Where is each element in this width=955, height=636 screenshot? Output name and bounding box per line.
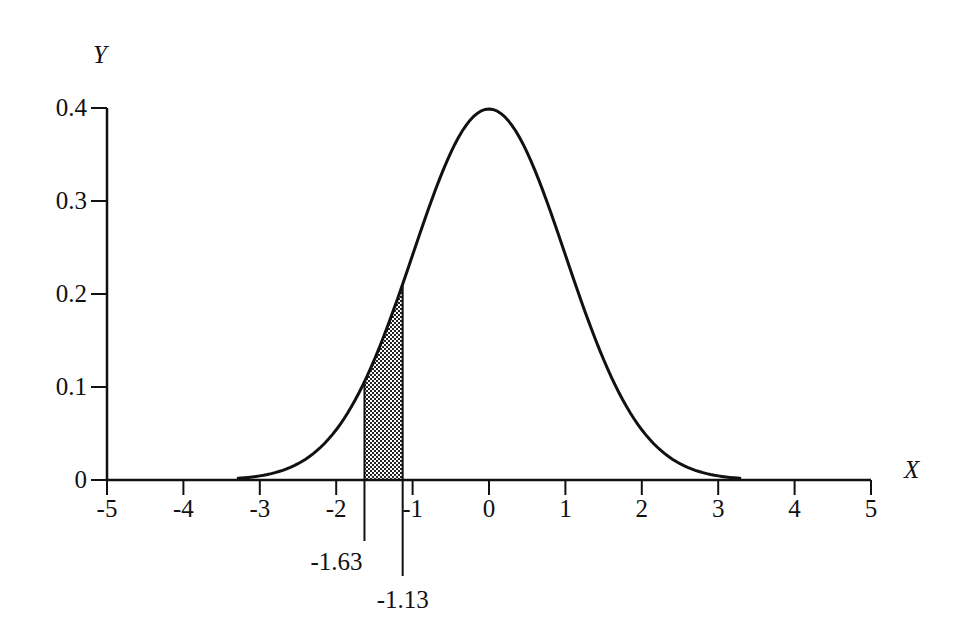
y-tick-label: 0.3 <box>56 187 87 214</box>
lower-bound-label: -1.63 <box>310 548 362 575</box>
x-tick-label: -3 <box>249 495 270 522</box>
x-tick-label: 2 <box>636 495 649 522</box>
density-curve <box>237 109 741 478</box>
y-tick-label: 0.1 <box>56 373 87 400</box>
x-tick-label: 0 <box>483 495 496 522</box>
x-tick-label: -4 <box>173 495 194 522</box>
x-tick-label: 4 <box>788 495 801 522</box>
y-tick-label: 0.4 <box>56 94 88 121</box>
x-tick-label: 3 <box>712 495 725 522</box>
shaded-probability-region <box>364 284 402 480</box>
x-tick-label: -5 <box>97 495 118 522</box>
y-tick-label: 0 <box>75 466 88 493</box>
y-axis-title: Y <box>93 41 110 68</box>
x-tick-label: -2 <box>326 495 347 522</box>
axes: -5-4-3-2-101234500.10.20.30.4 <box>56 94 878 522</box>
x-axis-title: X <box>903 456 921 483</box>
upper-bound-label: -1.13 <box>377 586 429 613</box>
x-tick-label: -1 <box>402 495 423 522</box>
normal-distribution-chart: -5-4-3-2-101234500.10.20.30.4 -1.63-1.13… <box>0 0 955 636</box>
x-tick-label: 1 <box>559 495 572 522</box>
y-tick-label: 0.2 <box>56 280 87 307</box>
x-tick-label: 5 <box>865 495 878 522</box>
